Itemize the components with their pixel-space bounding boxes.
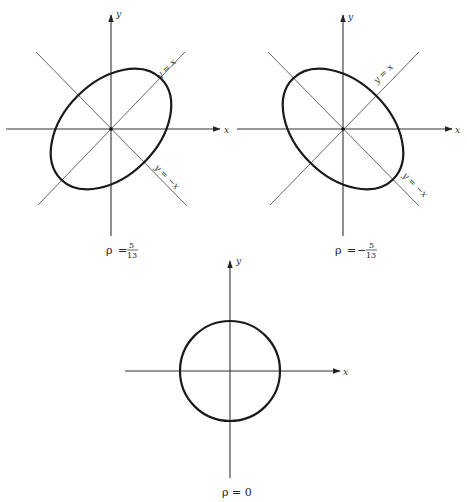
panel-positive-correlation: y x y = x y = −x ρ = 5 13 bbox=[6, 9, 229, 260]
origin-dot bbox=[109, 127, 113, 131]
y-axis-label: y bbox=[235, 256, 242, 266]
rho-label: ρ = 5 13 bbox=[106, 241, 138, 260]
panel-zero-correlation: y x ρ = 0 bbox=[125, 256, 348, 499]
label-y-eq-neg-x: y = −x bbox=[152, 162, 182, 192]
svg-text:5: 5 bbox=[369, 241, 374, 250]
svg-text:=: = bbox=[118, 244, 127, 257]
y-axis-label: y bbox=[347, 12, 354, 22]
correlation-contour-figure: y x y = x y = −x ρ = 5 13 y x y = x y = … bbox=[0, 0, 467, 502]
origin-dot bbox=[341, 127, 345, 131]
rho-label: ρ = 0 bbox=[222, 486, 252, 499]
x-axis-label: x bbox=[224, 125, 229, 135]
svg-text:13: 13 bbox=[127, 251, 137, 260]
svg-text:=: = bbox=[347, 244, 356, 257]
svg-text:ρ: ρ bbox=[335, 244, 341, 257]
rho-label: ρ = − 5 13 bbox=[335, 241, 377, 260]
svg-text:5: 5 bbox=[129, 241, 134, 250]
svg-text:−: − bbox=[357, 244, 366, 257]
label-y-eq-neg-x: y = −x bbox=[400, 170, 430, 200]
svg-text:13: 13 bbox=[366, 251, 376, 260]
x-axis-label: x bbox=[455, 125, 460, 135]
x-axis-label: x bbox=[343, 367, 348, 377]
y-axis-label: y bbox=[115, 9, 122, 19]
svg-text:ρ: ρ bbox=[106, 244, 112, 257]
label-y-eq-x: y = x bbox=[371, 62, 395, 86]
label-y-eq-x: y = x bbox=[154, 57, 178, 81]
panel-negative-correlation: y x y = x y = −x ρ = − 5 13 bbox=[237, 12, 460, 260]
